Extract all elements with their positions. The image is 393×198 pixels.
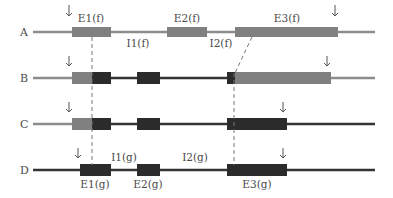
label-e2-g: E2(g): [133, 178, 162, 190]
row-d: D I1(g) I2(g) E1(g) E2(g) E3(g): [20, 148, 375, 190]
label-e3-g: E3(g): [242, 178, 271, 190]
exon-e1-g: [80, 164, 111, 176]
exon-f-segment: [72, 72, 92, 84]
label-e2-f: E2(f): [174, 12, 200, 24]
exon-e3-g: [227, 118, 287, 130]
arrow-down-icon: [332, 5, 338, 16]
exon-e2-f: [167, 27, 207, 37]
exon-f-segment: [72, 118, 92, 130]
exon-g-segment: [92, 118, 111, 130]
row-label-b: B: [20, 72, 28, 85]
arrow-down-icon: [66, 102, 72, 112]
junction-line-diagonal: [235, 37, 252, 73]
label-i1-g: I1(g): [111, 151, 137, 163]
arrow-down-icon: [66, 56, 72, 66]
arrow-down-icon: [75, 148, 81, 158]
arrow-down-icon: [280, 148, 286, 158]
label-e1-g: E1(g): [80, 178, 109, 190]
exon-e2-g: [137, 118, 160, 130]
row-a: A E1(f) E2(f) E3(f) I1(f) I2(f): [19, 5, 375, 49]
exon-e2-g: [137, 72, 160, 84]
arrow-down-icon: [280, 102, 286, 112]
label-e3-f: E3(f): [274, 12, 300, 24]
exon-g-segment: [92, 72, 111, 84]
exon-f-segment: [235, 72, 331, 84]
row-c: C: [20, 102, 375, 131]
arrow-down-icon: [66, 5, 72, 16]
label-e1-f: E1(f): [78, 12, 104, 24]
row-label-c: C: [20, 118, 28, 131]
gene-fusion-diagram: A E1(f) E2(f) E3(f) I1(f) I2(f) B: [0, 0, 393, 198]
exon-e2-g: [137, 164, 160, 176]
label-i2-f: I2(f): [210, 37, 233, 49]
row-label-a: A: [19, 26, 29, 39]
row-b: B: [20, 56, 375, 85]
exon-e1-f: [72, 27, 111, 37]
arrow-down-icon: [324, 56, 330, 66]
exon-e3-g: [227, 164, 287, 176]
label-i1-f: I1(f): [127, 37, 150, 49]
exon-e3-f: [235, 27, 338, 37]
label-i2-g: I2(g): [182, 151, 208, 163]
row-label-d: D: [20, 164, 29, 177]
junction-guides: [92, 37, 252, 165]
